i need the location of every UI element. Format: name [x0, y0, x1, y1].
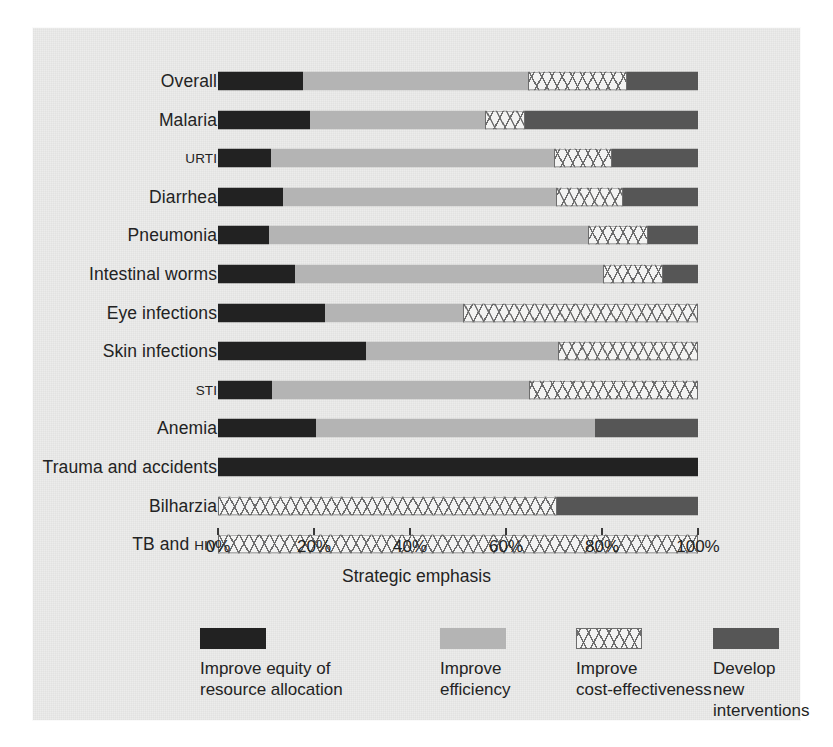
- bar-segment-costeff: [528, 72, 627, 91]
- stacked-bar: [218, 303, 698, 322]
- row-label: Anemia: [157, 418, 217, 439]
- bar-segment-equity: [218, 342, 366, 361]
- chart-row: STI: [33, 371, 800, 409]
- bar-segment-equity: [218, 72, 303, 91]
- chart-row: Skin infections: [33, 332, 800, 370]
- bar-segment-equity: [218, 149, 271, 168]
- legend-label-newint: Develop new interventions: [713, 658, 809, 721]
- row-label: Bilharzia: [149, 495, 217, 516]
- chart-panel: OverallMalariaURTIDiarrheaPneumoniaIntes…: [33, 28, 800, 720]
- bar-segment-efficiency: [316, 419, 595, 438]
- bar-segment-newint: [525, 110, 698, 129]
- bar-segment-costeff: [218, 535, 698, 554]
- bar-segment-efficiency: [310, 110, 485, 129]
- chart-row: Intestinal worms: [33, 255, 800, 293]
- row-label: TB and HIV: [132, 534, 217, 555]
- bar-segment-efficiency: [366, 342, 558, 361]
- chart-row: URTI: [33, 139, 800, 177]
- x-tick: [505, 528, 507, 535]
- bar-segment-newint: [595, 419, 698, 438]
- bar-segment-equity: [218, 419, 316, 438]
- bar-segment-costeff: [556, 187, 623, 206]
- chart-row: Eye infections: [33, 294, 800, 332]
- chart-row: Trauma and accidents: [33, 448, 800, 486]
- stacked-bar: [218, 149, 698, 168]
- bar-segment-equity: [218, 303, 325, 322]
- stacked-bar: [218, 226, 698, 245]
- bar-segment-newint: [612, 149, 698, 168]
- row-label: Trauma and accidents: [43, 457, 218, 478]
- chart-row: Anemia: [33, 409, 800, 447]
- legend-label-efficiency: Improve efficiency: [440, 658, 511, 700]
- x-tick: [217, 528, 219, 535]
- legend-item-equity: Improve equity of resource allocation: [200, 628, 343, 700]
- chart-row: Diarrhea: [33, 178, 800, 216]
- stacked-bar: [218, 110, 698, 129]
- bar-segment-efficiency: [303, 72, 528, 91]
- stacked-bar: [218, 535, 698, 554]
- bar-segment-equity: [218, 458, 698, 477]
- bar-segment-efficiency: [271, 149, 554, 168]
- legend-swatch-efficiency: [440, 628, 506, 649]
- legend-swatch-equity: [200, 628, 266, 649]
- stacked-bar: [218, 72, 698, 91]
- row-label: Skin infections: [103, 341, 217, 362]
- stacked-bar: [218, 342, 698, 361]
- row-label: Malaria: [159, 109, 217, 130]
- x-tick-label: 40%: [393, 537, 427, 557]
- x-tick: [601, 528, 603, 535]
- bar-segment-efficiency: [272, 380, 529, 399]
- x-tick-label: 100%: [676, 537, 719, 557]
- x-tick-label: 0%: [206, 537, 231, 557]
- x-tick: [409, 528, 411, 535]
- bar-segment-costeff: [558, 342, 698, 361]
- stacked-bar: [218, 380, 698, 399]
- row-label: Pneumonia: [128, 225, 217, 246]
- bar-segment-costeff: [463, 303, 698, 322]
- row-label: Overall: [161, 71, 217, 92]
- bar-segment-costeff: [218, 496, 557, 515]
- row-label: Eye infections: [107, 302, 217, 323]
- chart-row: Malaria: [33, 101, 800, 139]
- bar-segment-costeff: [554, 149, 612, 168]
- legend-item-newint: Develop new interventions: [713, 628, 809, 721]
- bar-segment-newint: [627, 72, 698, 91]
- row-label: STI: [196, 382, 217, 397]
- bar-segment-efficiency: [269, 226, 588, 245]
- bar-segment-newint: [663, 265, 698, 284]
- bar-segment-newint: [623, 187, 698, 206]
- bar-segment-equity: [218, 187, 283, 206]
- x-axis-title: Strategic emphasis: [33, 566, 800, 587]
- x-tick-label: 80%: [585, 537, 619, 557]
- bar-segment-newint: [648, 226, 698, 245]
- x-tick-label: 60%: [489, 537, 523, 557]
- bar-segment-equity: [218, 226, 269, 245]
- x-tick: [697, 528, 699, 535]
- x-axis: 0%20%40%60%80%100%: [218, 528, 698, 529]
- plot-area: OverallMalariaURTIDiarrheaPneumoniaIntes…: [33, 28, 800, 548]
- legend-item-efficiency: Improve efficiency: [440, 628, 511, 700]
- chart-row: Pneumonia: [33, 216, 800, 254]
- bar-segment-equity: [218, 110, 310, 129]
- chart-legend: Improve equity of resource allocationImp…: [33, 628, 800, 720]
- row-label: Intestinal worms: [89, 264, 217, 285]
- bar-segment-equity: [218, 380, 272, 399]
- legend-label-equity: Improve equity of resource allocation: [200, 658, 343, 700]
- chart-row: Bilharzia: [33, 487, 800, 525]
- stacked-bar: [218, 187, 698, 206]
- bar-segment-newint: [557, 496, 698, 515]
- bar-segment-efficiency: [283, 187, 556, 206]
- bar-segment-equity: [218, 265, 295, 284]
- stacked-bar: [218, 458, 698, 477]
- stacked-bar: [218, 419, 698, 438]
- row-label: URTI: [185, 151, 217, 166]
- bar-segment-costeff: [485, 110, 525, 129]
- stacked-bar: [218, 265, 698, 284]
- x-tick-label: 20%: [297, 537, 331, 557]
- chart-row: Overall: [33, 62, 800, 100]
- bar-segment-efficiency: [325, 303, 463, 322]
- bar-segment-costeff: [588, 226, 648, 245]
- x-tick: [313, 528, 315, 535]
- bar-segment-efficiency: [295, 265, 603, 284]
- stacked-bar: [218, 496, 698, 515]
